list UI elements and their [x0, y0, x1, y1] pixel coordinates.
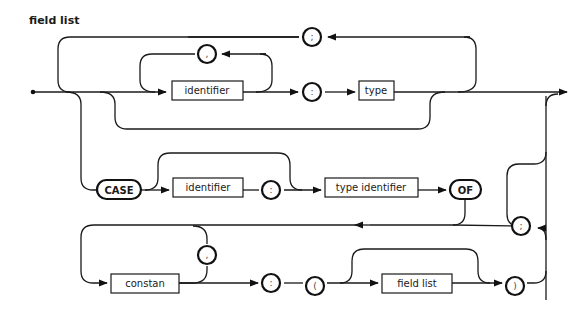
- case-identifier-label: identifier: [186, 182, 232, 193]
- type-identifier-label: type identifier: [336, 182, 407, 193]
- start-dot: [31, 90, 36, 95]
- field-list-label: field list: [397, 278, 437, 289]
- case-colon-symbol: :: [269, 185, 272, 195]
- type-label: type: [365, 85, 387, 96]
- comma-symbol: ,: [206, 49, 209, 59]
- variant-semicolon-symbol: ;: [519, 221, 522, 231]
- rparen-symbol: ): [513, 281, 517, 291]
- variant-colon-symbol: :: [269, 278, 272, 288]
- semicolon-symbol: ;: [310, 32, 313, 42]
- identifier-label: identifier: [185, 85, 231, 96]
- constant-comma-symbol: ,: [206, 250, 209, 260]
- lparen-symbol: (: [313, 281, 317, 291]
- case-label: CASE: [104, 185, 133, 196]
- colon-symbol: :: [310, 87, 313, 97]
- constant-label: constan: [125, 278, 165, 289]
- of-label: OF: [458, 185, 473, 196]
- syntax-diagram: , ; identifier : type CASE identifier : …: [0, 0, 573, 316]
